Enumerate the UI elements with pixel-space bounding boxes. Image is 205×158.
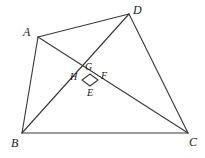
vertex-label-B: B xyxy=(11,137,18,149)
vertex-label-A: A xyxy=(23,26,30,38)
segment-DA xyxy=(38,14,129,37)
segment-AC xyxy=(38,37,188,133)
geometry-figure: A B C D G F E H xyxy=(0,0,205,158)
point-label-E: E xyxy=(87,88,93,98)
point-label-F: F xyxy=(101,71,107,81)
point-label-G: G xyxy=(85,62,92,72)
vertex-label-D: D xyxy=(133,4,142,16)
segment-CD xyxy=(129,14,188,133)
inner-quadrilateral-EFGH xyxy=(82,74,98,86)
vertex-label-C: C xyxy=(189,136,197,148)
point-label-H: H xyxy=(70,72,77,82)
